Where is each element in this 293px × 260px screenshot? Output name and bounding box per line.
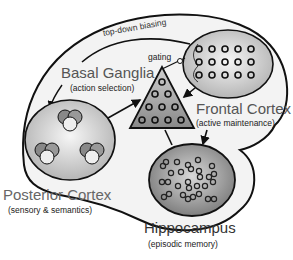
gating-label: gating <box>148 52 171 62</box>
posterior-cortex-role: (sensory & semantics) <box>8 205 92 215</box>
brain-systems-diagram: top-down biasing gating Basal Ganglia (a… <box>0 0 293 260</box>
basal-ganglia-title: Basal Ganglia <box>61 64 154 81</box>
basal-ganglia-role: (action selection) <box>70 83 134 93</box>
frontal-cortex-role: (active maintenance) <box>196 118 275 128</box>
hippocampus-role: (episodic memory) <box>148 239 218 249</box>
posterior-cortex-title: Posterior Cortex <box>3 186 111 203</box>
gating-node <box>178 59 183 64</box>
frontal-cortex-title: Frontal Cortex <box>196 100 291 117</box>
hippocampus-title: Hippocampus <box>144 219 236 236</box>
